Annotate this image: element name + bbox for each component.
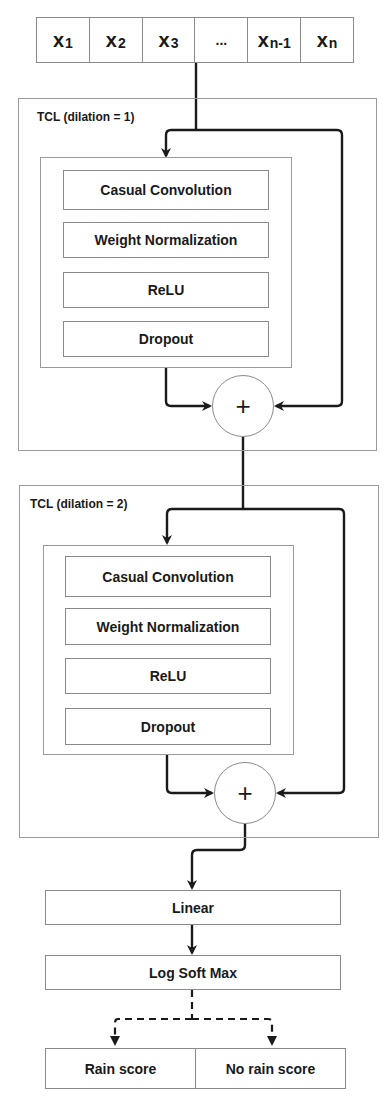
layer-dropout: Dropout [65,708,271,745]
layer-weight-normalization: Weight Normalization [65,608,271,645]
tcl-label: TCL (dilation = 2) [30,497,127,511]
layer-causal-convolution: Casual Convolution [63,170,269,210]
arrowhead-no-rain [267,1036,277,1046]
arrowhead-rain [110,1036,120,1046]
rain-score-output: Rain score [46,1049,196,1088]
log-softmax-layer: Log Soft Max [45,955,341,990]
input-cell-x3: x3 [143,18,196,62]
layer-relu: ReLU [63,272,269,308]
output-scores: Rain score No rain score [45,1048,346,1089]
sum-node-icon: + [214,762,276,824]
input-sequence: x1 x2 x3 ... xn-1 xn [36,17,354,63]
no-rain-score-output: No rain score [196,1049,345,1088]
input-cell-x1: x1 [37,18,90,62]
linear-layer: Linear [45,890,341,925]
input-cell-xn-1: xn-1 [248,18,301,62]
input-cell-ellipsis: ... [195,18,248,62]
layer-relu: ReLU [65,658,271,694]
layer-dropout: Dropout [63,321,269,357]
sum-node-icon: + [212,375,274,437]
layer-weight-normalization: Weight Normalization [63,222,269,258]
input-cell-x2: x2 [90,18,143,62]
tcl-label: TCL (dilation = 1) [37,110,134,124]
input-cell-xn: xn [301,18,353,62]
layer-causal-convolution: Casual Convolution [65,556,271,597]
